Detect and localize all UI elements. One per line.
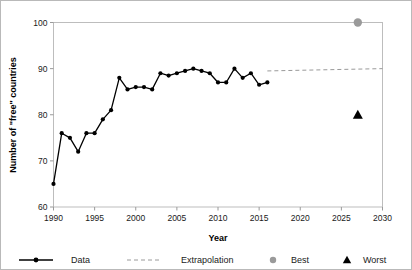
- legend-item-worst: Worst: [343, 255, 387, 265]
- data-point: [117, 76, 121, 80]
- plot-area-frame: [54, 23, 383, 208]
- chart-canvas: 60708090100 1990199520002005201020152020…: [1, 1, 412, 270]
- y-tick-label-80: 80: [38, 110, 48, 120]
- chart-legend: DataExtrapolationBestWorst: [19, 255, 387, 265]
- data-point: [76, 150, 80, 154]
- y-tick-label-100: 100: [33, 18, 47, 28]
- data-point: [224, 80, 228, 84]
- y-axis-tick-labels: 60708090100: [33, 18, 47, 213]
- x-tick-label-1990: 1990: [44, 213, 63, 223]
- x-tick-label-2010: 2010: [209, 213, 228, 223]
- series-best-marker: [354, 18, 362, 26]
- data-point: [191, 67, 195, 71]
- x-tick-label-2025: 2025: [332, 213, 351, 223]
- legend-circle-icon: [270, 257, 276, 263]
- x-axis-ticks: [54, 207, 383, 211]
- legend-item-extrapolation: Extrapolation: [127, 255, 234, 265]
- legend-label: Data: [71, 255, 90, 265]
- x-tick-label-1995: 1995: [85, 213, 104, 223]
- data-point: [84, 131, 88, 135]
- legend-label: Extrapolation: [181, 255, 234, 265]
- data-point: [167, 73, 171, 77]
- data-point: [51, 182, 55, 186]
- data-point: [208, 71, 212, 75]
- y-tick-label-60: 60: [38, 202, 48, 212]
- data-point: [142, 85, 146, 89]
- data-point: [93, 131, 97, 135]
- data-point: [134, 85, 138, 89]
- data-point: [175, 71, 179, 75]
- data-point: [183, 69, 187, 73]
- y-tick-label-70: 70: [38, 156, 48, 166]
- x-tick-label-2000: 2000: [126, 213, 145, 223]
- y-axis-title: Number of "free" countries: [8, 57, 18, 173]
- data-point: [150, 87, 154, 91]
- x-tick-label-2030: 2030: [373, 213, 392, 223]
- data-point: [249, 71, 253, 75]
- data-point: [232, 67, 236, 71]
- data-point: [158, 71, 162, 75]
- best-marker: [354, 18, 362, 26]
- legend-triangle-icon: [343, 256, 351, 264]
- data-point: [265, 80, 269, 84]
- data-point: [60, 131, 64, 135]
- x-tick-label-2005: 2005: [167, 213, 186, 223]
- x-tick-label-2020: 2020: [291, 213, 310, 223]
- data-point: [109, 108, 113, 112]
- data-point: [241, 76, 245, 80]
- legend-label: Best: [291, 255, 310, 265]
- data-point: [125, 87, 129, 91]
- x-tick-label-2015: 2015: [250, 213, 269, 223]
- chart-figure: 60708090100 1990199520002005201020152020…: [0, 0, 412, 270]
- data-point: [199, 69, 203, 73]
- data-point: [257, 83, 261, 87]
- legend-item-best: Best: [270, 255, 310, 265]
- data-point: [101, 117, 105, 121]
- legend-label: Worst: [363, 255, 387, 265]
- x-axis-title: Year: [208, 233, 228, 243]
- legend-dot-icon: [34, 258, 39, 263]
- legend-item-data: Data: [19, 255, 90, 265]
- x-axis-tick-labels: 199019952000200520102015202020252030: [44, 213, 392, 223]
- data-point: [68, 136, 72, 140]
- y-axis-ticks: [50, 23, 54, 208]
- data-point: [216, 80, 220, 84]
- y-tick-label-90: 90: [38, 64, 48, 74]
